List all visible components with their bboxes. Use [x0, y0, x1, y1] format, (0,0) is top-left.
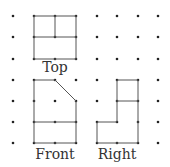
top-view-label: Top: [42, 60, 68, 74]
dot-grid-diagram: [0, 0, 170, 167]
front-view: [34, 80, 76, 143]
top-view: [34, 16, 76, 59]
right-view-label: Right: [98, 147, 137, 161]
front-view-label: Front: [35, 147, 74, 161]
right-view: [97, 80, 138, 143]
